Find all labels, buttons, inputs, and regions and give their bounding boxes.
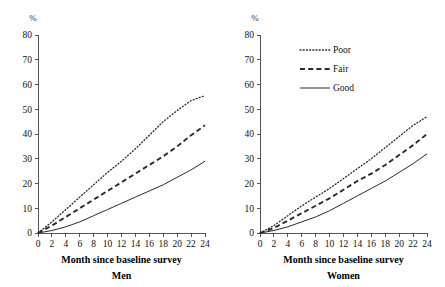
y-axis-unit-label: % [29,13,37,23]
series-line-poor [38,96,205,233]
y-axis-tick-label: 30 [245,154,255,164]
y-axis-tick-label: 30 [23,154,33,164]
y-axis-tick-label: 70 [245,55,255,65]
x-axis-tick-label: 12 [117,239,127,249]
legend-label-poor: Poor [333,45,352,55]
x-axis-tick-label: 0 [258,239,263,249]
x-axis-tick-label: 14 [353,239,363,249]
chart-panel-women: %01020304050607080024681012141618202224M… [222,0,444,287]
x-axis-tick-label: 2 [272,239,277,249]
x-axis-tick-label: 4 [63,239,68,249]
x-axis-tick-label: 6 [299,239,304,249]
x-axis-tick-label: 22 [186,239,196,249]
y-axis-tick-label: 10 [23,204,33,214]
y-axis-tick-label: 40 [23,129,33,139]
series-line-poor [260,117,427,233]
x-axis-tick-label: 10 [103,239,113,249]
figure-panel-pair: %01020304050607080024681012141618202224M… [0,0,445,287]
legend-label-good: Good [333,83,354,93]
x-axis-tick-label: 16 [145,239,155,249]
x-axis-tick-label: 2 [50,239,55,249]
x-axis-tick-label: 0 [36,239,41,249]
x-axis-tick-label: 22 [408,239,418,249]
y-axis-tick-label: 10 [245,204,255,214]
x-axis-tick-label: 10 [325,239,335,249]
y-axis-tick-label: 20 [245,179,255,189]
y-axis-tick-label: 80 [23,30,33,40]
legend: PoorFairGood [300,45,354,93]
x-axis-tick-label: 18 [381,239,391,249]
x-axis-tick-label: 14 [131,239,141,249]
panel-title: Men [112,270,132,281]
panel-title: Women [327,270,360,281]
y-axis-tick-label: 50 [23,105,33,115]
y-axis-tick-label: 0 [249,228,254,238]
chart-svg-women: %01020304050607080024681012141618202224M… [222,0,444,287]
x-axis-tick-label: 8 [91,239,96,249]
y-axis-unit-label: % [251,13,259,23]
y-axis-tick-label: 60 [245,80,255,90]
x-axis-title: Month since baseline survey [61,254,181,265]
x-axis-tick-label: 20 [394,239,404,249]
x-axis-tick-label: 16 [367,239,377,249]
x-axis-tick-label: 24 [422,239,432,249]
x-axis-tick-label: 4 [285,239,290,249]
chart-panel-men: %01020304050607080024681012141618202224M… [0,0,222,287]
y-axis-tick-label: 70 [23,55,33,65]
x-axis-tick-label: 8 [313,239,318,249]
y-axis-tick-label: 80 [245,30,255,40]
x-axis-tick-label: 18 [159,239,169,249]
series-line-fair [38,125,205,233]
chart-svg-men: %01020304050607080024681012141618202224M… [0,0,222,287]
y-axis-tick-label: 20 [23,179,33,189]
x-axis-tick-label: 12 [339,239,349,249]
x-axis-tick-label: 6 [77,239,82,249]
y-axis-tick-label: 50 [245,105,255,115]
x-axis-tick-label: 20 [172,239,182,249]
y-axis-tick-label: 60 [23,80,33,90]
series-line-good [38,161,205,233]
x-axis-tick-label: 24 [200,239,210,249]
y-axis-tick-label: 40 [245,129,255,139]
legend-label-fair: Fair [333,64,349,74]
y-axis-tick-label: 0 [27,228,32,238]
x-axis-title: Month since baseline survey [283,254,403,265]
